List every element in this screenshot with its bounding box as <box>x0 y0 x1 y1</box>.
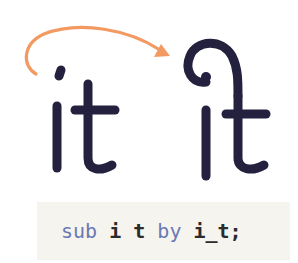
ligature-glyph-i_t <box>188 43 266 176</box>
code-glyph-i_t: i_t; <box>194 219 242 243</box>
code-glyph-t: t <box>133 219 145 243</box>
code-keyword-sub: sub <box>61 219 97 243</box>
code-glyph-i: i <box>109 219 121 243</box>
ligature-diagram <box>0 0 298 195</box>
code-keyword-by: by <box>157 219 181 243</box>
glyph-ligature-t-stem <box>238 96 264 169</box>
feature-code-line: sub i t by i_t; <box>61 219 242 243</box>
glyph-i-dot <box>59 70 61 76</box>
glyph-t-stem <box>88 84 112 169</box>
code-snippet: sub i t by i_t; <box>37 202 290 260</box>
source-glyphs-it <box>57 70 115 169</box>
glyph-ligature-curl <box>188 43 238 96</box>
substitution-arrow-icon <box>26 27 170 74</box>
